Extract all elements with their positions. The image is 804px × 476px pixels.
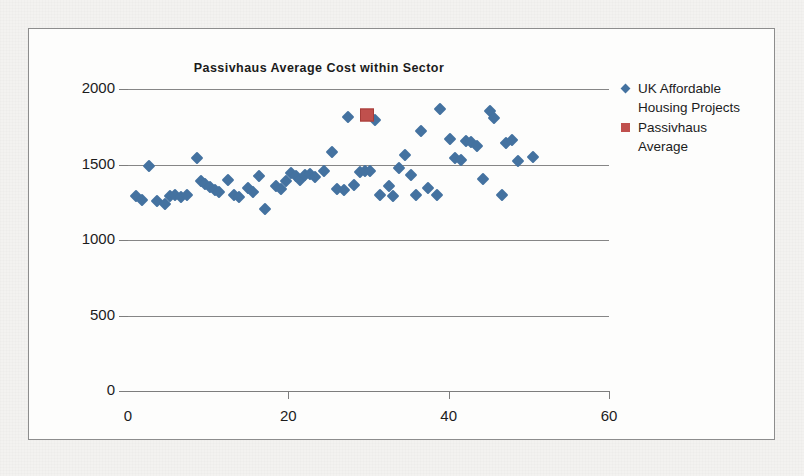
data-point-series-1 [252, 169, 265, 182]
data-point-series-1 [191, 151, 204, 164]
data-point-series-2 [360, 108, 374, 121]
y-axis-tick [119, 240, 128, 241]
legend-label-line-1: UK Affordable [638, 79, 771, 98]
data-point-series-1 [259, 203, 272, 216]
y-axis-label: 1000 [31, 231, 115, 246]
data-point-series-1 [431, 189, 444, 202]
data-point-series-1 [341, 111, 354, 124]
legend-label-line-2: Average [638, 137, 771, 156]
y-axis-label: 1500 [31, 156, 115, 171]
x-axis-label: 40 [429, 408, 469, 423]
y-axis-tick [119, 391, 128, 392]
y-axis-label: 0 [31, 382, 115, 397]
data-point-series-1 [477, 172, 490, 185]
scanned-page-background: Passivhaus Average Cost within Sector 05… [0, 0, 804, 476]
chart-legend: UK Affordable Housing Projects Passivhau… [619, 79, 771, 157]
data-point-series-1 [415, 125, 428, 138]
legend-label-line-2: Housing Projects [638, 98, 771, 117]
x-axis-tick [288, 391, 289, 399]
x-axis-tick [449, 391, 450, 399]
data-point-series-1 [511, 155, 524, 168]
y-axis-tick [119, 316, 128, 317]
chart-frame: Passivhaus Average Cost within Sector 05… [28, 28, 775, 440]
x-axis-tick [609, 391, 610, 399]
red-square-marker-icon [621, 123, 630, 132]
data-point-series-1 [409, 188, 422, 201]
data-point-series-1 [405, 169, 418, 182]
blue-diamond-marker-icon [621, 84, 631, 94]
x-axis-line [128, 391, 609, 392]
gridline-y [128, 316, 609, 317]
data-point-series-1 [142, 160, 155, 173]
y-axis-tick [119, 165, 128, 166]
data-point-series-1 [213, 186, 226, 199]
gridline-y [128, 240, 609, 241]
legend-item-passivhaus-average: Passivhaus Average [619, 118, 771, 156]
data-point-series-1 [526, 151, 539, 164]
y-axis-label: 500 [31, 307, 115, 322]
data-point-series-1 [326, 145, 339, 158]
data-point-series-1 [433, 102, 446, 115]
data-point-series-1 [495, 189, 508, 202]
y-axis-tick [119, 89, 128, 90]
y-axis-label: 2000 [31, 80, 115, 95]
x-axis-label: 60 [589, 408, 629, 423]
legend-label-line-1: Passivhaus [638, 118, 771, 137]
data-point-series-1 [373, 189, 386, 202]
x-axis-label: 20 [268, 408, 308, 423]
gridline-y [128, 89, 609, 90]
data-point-series-1 [398, 148, 411, 161]
legend-item-uk-affordable-housing-projects: UK Affordable Housing Projects [619, 79, 771, 117]
data-point-series-1 [444, 132, 457, 145]
x-axis-label: 0 [108, 408, 148, 423]
data-point-series-1 [222, 174, 235, 187]
